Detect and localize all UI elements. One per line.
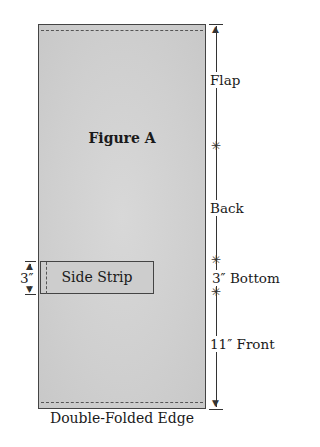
side-strip-label: Side Strip xyxy=(41,269,153,285)
figure-caption: Double-Folded Edge xyxy=(38,410,206,426)
section-label-bottom: 3″ Bottom xyxy=(212,270,280,286)
side-strip-fold-line xyxy=(46,262,47,294)
side-strip: Side Strip xyxy=(40,261,154,294)
top-fold-line xyxy=(41,30,203,31)
strip-height-label: 3″ xyxy=(20,270,34,286)
bottom-fold-line xyxy=(41,402,203,403)
figure-title: Figure A xyxy=(39,130,205,146)
section-label-flap: Flap xyxy=(210,72,240,88)
section-label-front: 11″ Front xyxy=(210,336,275,352)
fabric-panel: Figure A xyxy=(38,24,206,409)
section-marker-icon: ✳ xyxy=(211,286,221,298)
section-label-back: Back xyxy=(210,200,244,216)
strip-dimension-bottom-tick xyxy=(25,294,36,295)
section-marker-icon: ✳ xyxy=(211,254,221,266)
section-marker-icon: ✳ xyxy=(211,140,221,152)
arrow-down-icon: ▼ xyxy=(26,285,33,294)
arrow-down-icon: ▼ xyxy=(212,399,219,408)
dimension-bottom-tick xyxy=(209,409,223,410)
